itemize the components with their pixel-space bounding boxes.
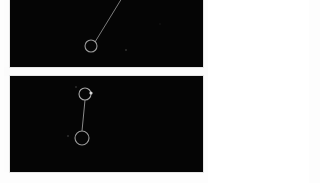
top-frame-graphics xyxy=(10,0,203,67)
upper-joint-circle xyxy=(79,88,91,100)
bottom-frame-graphics xyxy=(10,76,203,172)
frame-stack: Frame 1 Frame 2 xyxy=(0,0,208,183)
highlight-nub-icon xyxy=(89,91,92,94)
bottom-frame-panel[interactable]: Frame 2 xyxy=(10,76,203,172)
faint-speckle-top-icon xyxy=(75,86,77,88)
left-margin xyxy=(0,0,4,183)
pivot-circle xyxy=(85,40,97,52)
page-footer-margin xyxy=(0,172,208,183)
frame-divider xyxy=(0,67,208,76)
lower-joint-circle xyxy=(75,131,89,145)
faint-speckle-icon xyxy=(125,49,127,51)
rod-segment xyxy=(95,0,122,42)
connecting-rod xyxy=(82,100,85,131)
faint-speckle-left-icon xyxy=(67,135,69,137)
noise-speck-icon xyxy=(159,23,160,24)
top-frame-panel[interactable]: Frame 1 xyxy=(10,0,203,67)
